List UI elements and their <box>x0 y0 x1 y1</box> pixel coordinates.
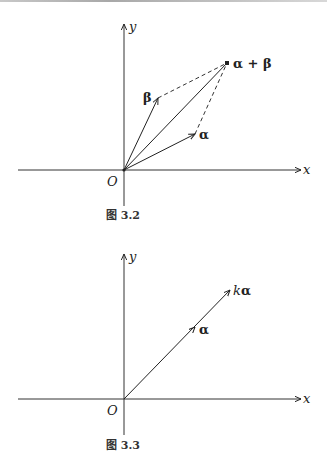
beta-label: β <box>143 90 152 105</box>
vector-k-alpha <box>124 290 230 399</box>
vector-alpha-plus-beta <box>124 63 227 170</box>
alpha-label: α <box>199 127 209 142</box>
origin-label: O <box>107 174 118 189</box>
alpha-plus-beta-label: α + β <box>233 56 272 71</box>
origin-label: O <box>107 403 118 418</box>
dashed-line-alpha-to-sum <box>195 63 227 134</box>
figure-caption: 图 3.3 <box>106 439 140 452</box>
x-axis-label: x <box>303 162 311 177</box>
figure-3-2: x y O α β α + β 图 3.2 <box>18 19 311 222</box>
vector-beta <box>124 98 158 170</box>
alpha-label: α <box>199 322 209 337</box>
y-axis-label: y <box>128 19 137 34</box>
vector-diagrams: x y O α β α + β 图 3.2 x y O kα α 图 3.3 <box>0 0 327 468</box>
dashed-line-beta-to-sum <box>158 63 227 98</box>
vector-alpha <box>124 134 195 170</box>
figure-caption: 图 3.2 <box>106 209 140 222</box>
x-axis-label: x <box>303 391 311 406</box>
figure-3-3: x y O kα α 图 3.3 <box>18 249 311 452</box>
k-alpha-label: kα <box>233 283 251 298</box>
sum-point <box>225 61 229 65</box>
y-axis-label: y <box>128 249 137 264</box>
